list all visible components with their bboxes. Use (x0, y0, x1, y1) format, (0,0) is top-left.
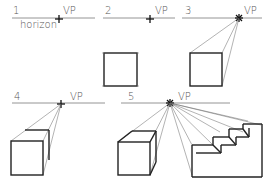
panel-3: 3 VP (182, 5, 262, 86)
panel-2: 2 VP (102, 5, 175, 86)
front-square (102, 53, 139, 86)
panel-1: 1 horizon VP (12, 5, 95, 30)
vp-label: VP (155, 5, 168, 16)
panel-number: 3 (185, 5, 191, 16)
cube (118, 131, 156, 175)
convergence-lines (118, 103, 261, 175)
panel-number: 4 (14, 91, 20, 102)
vp-label: VP (63, 5, 76, 16)
panel-number: 5 (128, 91, 134, 102)
vp-label: VP (244, 5, 257, 16)
staircase (192, 124, 262, 177)
vp-label: VP (178, 91, 191, 102)
vp-label: VP (70, 91, 83, 102)
convergence-lines (11, 104, 61, 175)
panel-4: 4 VP (11, 91, 105, 175)
panel-5: 5 VP (118, 91, 262, 177)
vanishing-point-icon (146, 15, 154, 23)
panel-number: 2 (105, 5, 111, 16)
front-square (190, 53, 222, 86)
horizon-label: horizon (20, 19, 57, 30)
panel-number: 1 (13, 5, 19, 16)
perspective-diagram: 1 horizon VP 2 VP 3 (0, 0, 263, 181)
convergence-lines (190, 18, 239, 86)
